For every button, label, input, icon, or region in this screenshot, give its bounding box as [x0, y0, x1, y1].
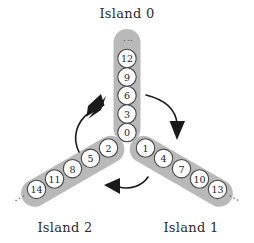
- island-0-node-6-label: 6: [124, 90, 130, 101]
- island-1-node-13: 13: [208, 180, 226, 198]
- island-0-node-3-label: 3: [124, 109, 130, 120]
- island-0-node-12: 12: [118, 49, 136, 67]
- island-2-label: Island 2: [10, 220, 120, 235]
- island-1-node-7-label: 7: [178, 164, 184, 175]
- island-2-node-8-label: 8: [69, 164, 75, 175]
- island-0-node-9-label: 9: [124, 72, 130, 83]
- island-0-group: ⋮ 12 9 6 3 0: [114, 29, 141, 142]
- island-0-node-12-label: 12: [121, 53, 133, 64]
- island-1-node-10: 10: [190, 170, 208, 188]
- island-2-node-11-label: 11: [48, 174, 60, 185]
- island-0-overflow-marker: ⋮: [121, 35, 134, 47]
- island-2-node-5-label: 5: [87, 153, 93, 164]
- island-1-node-4: 4: [154, 149, 172, 167]
- island-1-label: Island 1: [136, 220, 246, 235]
- island-2-node-5: 5: [81, 149, 99, 167]
- island-0-node-3: 3: [118, 105, 136, 123]
- diagram-canvas: ⋮ 12 9 6 3 0: [0, 0, 254, 243]
- island-1-node-10-label: 10: [193, 174, 205, 185]
- island-0-label: Island 0: [0, 6, 254, 21]
- island-1-node-1-label: 1: [142, 143, 148, 154]
- arrow-island0-to-island1: [146, 95, 185, 140]
- island-2-node-2: 2: [99, 139, 117, 157]
- island-1-node-4-label: 4: [160, 153, 166, 164]
- island-1-node-1: 1: [136, 139, 154, 157]
- island-ring-diagram: ⋮ 12 9 6 3 0: [0, 0, 254, 243]
- island-0-node-6: 6: [118, 86, 136, 104]
- island-2-node-14: 14: [27, 180, 45, 198]
- arrow-island1-to-island2: [104, 177, 148, 194]
- island-1-node-7: 7: [172, 160, 190, 178]
- island-1-node-13-label: 13: [211, 184, 223, 195]
- island-0-node-0-label: 0: [124, 127, 130, 138]
- island-2-node-2-label: 2: [105, 143, 111, 154]
- island-0-node-9: 9: [118, 68, 136, 86]
- island-0-node-0: 0: [118, 123, 136, 141]
- island-2-node-14-label: 14: [30, 184, 42, 195]
- island-2-node-8: 8: [63, 160, 81, 178]
- island-2-node-11: 11: [45, 170, 63, 188]
